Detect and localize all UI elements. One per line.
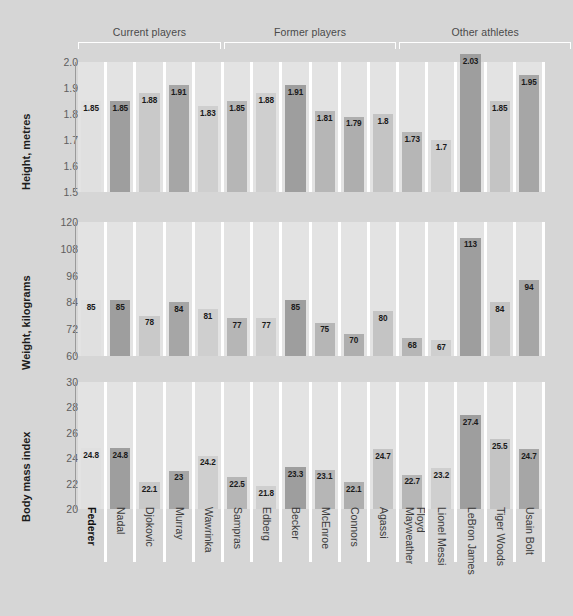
slot-separator — [542, 382, 545, 509]
category-label: Nadal — [116, 507, 127, 534]
chart-panel-2: Body mass index20222426283024.824.822.12… — [0, 382, 573, 509]
bar — [460, 415, 480, 509]
axis-title: Weight, kilograms — [20, 275, 32, 370]
chart-panel-0: Height, metres1.51.61.71.81.92.01.851.85… — [0, 62, 573, 192]
category-label: Tiger Woods — [495, 507, 506, 566]
bar-value-label: 1.85 — [81, 104, 101, 113]
category-label: LeBron James — [466, 507, 477, 575]
axis-title: Height, metres — [20, 114, 32, 190]
bar-value-label: 27.4 — [460, 418, 480, 427]
category-label-cell: Murray — [166, 504, 192, 616]
category-label: McEnroe — [320, 507, 331, 549]
category-label-cell: Djokovic — [136, 504, 162, 616]
category-label-cell: Nadal — [107, 504, 133, 616]
bar — [110, 101, 130, 192]
bar-value-label: 94 — [519, 283, 539, 292]
category-label-cell: McEnroe — [312, 504, 338, 616]
y-axis-line — [75, 222, 76, 356]
bar-value-label: 1.83 — [198, 109, 218, 118]
bar — [139, 93, 159, 192]
y-axis-tick: 84 — [66, 297, 78, 308]
bar — [198, 106, 218, 192]
category-label: Edberg — [262, 507, 273, 541]
bar-value-label: 80 — [373, 314, 393, 323]
group-band-2: Other athletes — [399, 26, 571, 54]
bar-value-label: 25.5 — [490, 442, 510, 451]
bar-value-label: 1.79 — [344, 119, 364, 128]
bar-value-label: 23 — [169, 473, 189, 482]
bar — [373, 114, 393, 192]
bar-value-label: 24.7 — [373, 452, 393, 461]
bar-value-label: 2.03 — [460, 57, 480, 66]
plot-area: 24.824.822.12324.222.521.823.323.122.124… — [78, 382, 545, 509]
bar-value-label: 1.85 — [227, 104, 247, 113]
group-label: Other athletes — [399, 26, 571, 38]
bar-value-label: 84 — [169, 305, 189, 314]
bar-value-label: 85 — [81, 303, 101, 312]
category-label-cell: Connors — [341, 504, 367, 616]
bar-value-label: 22.7 — [402, 477, 422, 486]
bar-value-label: 1.95 — [519, 78, 539, 87]
category-label: Connors — [349, 507, 360, 547]
bar — [519, 75, 539, 192]
bar-value-label: 22.1 — [344, 485, 364, 494]
category-label: Murray — [174, 507, 185, 540]
group-bracket — [78, 42, 221, 49]
category-label-cell: Sampras — [224, 504, 250, 616]
group-bracket — [399, 42, 571, 49]
category-label: Djokovic — [145, 507, 156, 547]
bar-value-label: 85 — [110, 303, 130, 312]
bar-value-label: 68 — [402, 341, 422, 350]
category-label: Becker — [291, 507, 302, 540]
bar-value-label: 22.1 — [139, 485, 159, 494]
y-axis-line — [75, 382, 76, 509]
bar-value-label: 1.7 — [431, 143, 451, 152]
bar-value-label: 81 — [198, 312, 218, 321]
category-label-cell: FloydMayweather — [399, 504, 425, 616]
y-axis-tick: 22 — [66, 478, 78, 489]
category-label-cell: Edberg — [253, 504, 279, 616]
bar — [315, 111, 335, 192]
bar — [460, 238, 480, 356]
bar-value-label: 1.88 — [256, 96, 276, 105]
chart-root: Current playersFormer playersOther athle… — [0, 0, 573, 616]
category-label: Sampras — [232, 507, 243, 549]
bar-value-label: 24.8 — [110, 451, 130, 460]
bar-value-label: 1.81 — [315, 114, 335, 123]
group-label: Current players — [78, 26, 221, 38]
category-label: Usain Bolt — [524, 507, 535, 555]
bar-value-label: 77 — [227, 321, 247, 330]
category-label-cell: Becker — [282, 504, 308, 616]
group-band-1: Former players — [224, 26, 396, 54]
bar-value-label: 24.2 — [198, 458, 218, 467]
y-axis-tick: 28 — [66, 402, 78, 413]
plot-area: 858578848177778575708068671138494 — [78, 222, 545, 356]
bar — [227, 101, 247, 192]
bar-value-label: 113 — [460, 240, 480, 249]
bar-slot — [428, 222, 454, 356]
category-label: Federer — [86, 507, 97, 546]
category-label-cell: Agassi — [370, 504, 396, 616]
category-label: FloydMayweather — [405, 507, 426, 603]
chart-panel-1: Weight, kilograms60728496108120858578848… — [0, 222, 573, 356]
bar-value-label: 21.8 — [256, 489, 276, 498]
bar-value-label: 1.8 — [373, 117, 393, 126]
bar-value-label: 1.88 — [139, 96, 159, 105]
bar-value-label: 24.7 — [519, 452, 539, 461]
bar-value-label: 22.5 — [227, 480, 247, 489]
slot-separator — [542, 504, 545, 562]
bar — [460, 54, 480, 192]
y-axis-tick: 96 — [66, 270, 78, 281]
bar-value-label: 1.85 — [490, 104, 510, 113]
bar-value-label: 84 — [490, 305, 510, 314]
bar-value-label: 1.73 — [402, 135, 422, 144]
category-label-cell: Federer — [78, 504, 104, 616]
y-axis-tick: 24 — [66, 453, 78, 464]
bar-value-label: 23.3 — [285, 470, 305, 479]
bar-value-label: 67 — [431, 343, 451, 352]
category-label-cell: LeBron James — [457, 504, 483, 616]
bar — [169, 85, 189, 192]
y-axis-tick: 72 — [66, 324, 78, 335]
category-label-cell: Usain Bolt — [516, 504, 542, 616]
bar — [285, 85, 305, 192]
